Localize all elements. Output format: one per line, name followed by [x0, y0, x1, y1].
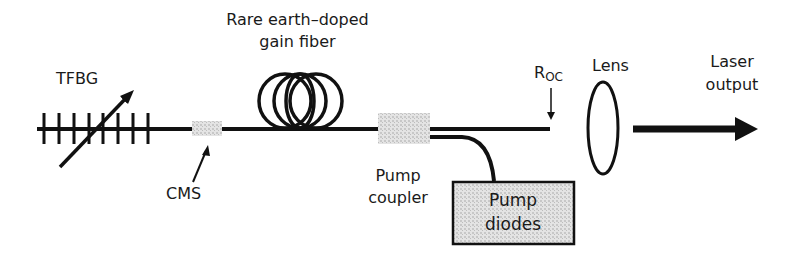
- lens-icon: [588, 82, 618, 174]
- diagram-canvas: [0, 0, 792, 259]
- pump-diodes-label: Pump diodes: [470, 188, 556, 236]
- gain-fiber-label-line2: gain fiber: [215, 31, 380, 53]
- pump-fiber: [430, 137, 494, 181]
- tfbg-label: TFBG: [56, 68, 98, 90]
- roc-label-subscript: OC: [545, 70, 563, 84]
- gain-fiber-label-line1: Rare earth–doped: [215, 9, 380, 31]
- gain-fiber-coils: [259, 74, 342, 128]
- laser-output-label: Laser output: [700, 50, 764, 96]
- cms-pointer-arrow-icon: [193, 151, 206, 182]
- laser-output-arrowhead-icon: [735, 117, 758, 141]
- cms-label: CMS: [166, 183, 201, 205]
- pump-coupler-label-line1: Pump: [362, 165, 434, 187]
- fiber-laser-diagram: TFBG Rare earth–doped gain fiber CMS Pum…: [0, 0, 792, 259]
- pump-diodes-label-line2: diodes: [470, 212, 556, 236]
- cms-arrowhead-icon: [202, 145, 210, 156]
- laser-output-label-line1: Laser: [700, 50, 764, 73]
- roc-arrowhead-icon: [547, 112, 555, 120]
- pump-diodes-label-line1: Pump: [470, 188, 556, 212]
- pump-coupler-label-line2: coupler: [362, 187, 434, 209]
- roc-label-main: R: [534, 63, 545, 82]
- cms-component: [192, 121, 222, 136]
- pump-coupler-component: [378, 113, 430, 144]
- gain-fiber-label: Rare earth–doped gain fiber: [215, 9, 380, 53]
- roc-label: ROC: [534, 62, 563, 88]
- laser-output-label-line2: output: [700, 73, 764, 96]
- pump-coupler-label: Pump coupler: [362, 165, 434, 209]
- lens-label: Lens: [592, 55, 629, 77]
